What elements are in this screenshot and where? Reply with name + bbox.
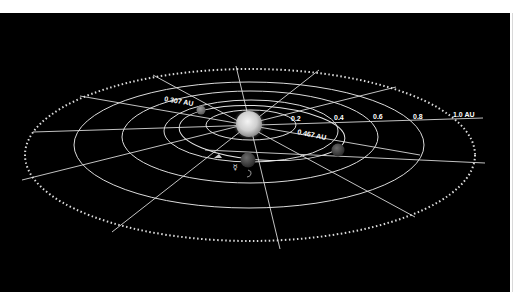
spiral-icon	[247, 170, 251, 177]
spoke-line	[22, 87, 396, 180]
planet-icon	[241, 153, 256, 168]
ring-label-0-2: 0.2	[291, 115, 301, 122]
aphelion-label: 0.467 AU	[297, 128, 327, 141]
planet-icon	[332, 144, 345, 157]
perihelion-label: 0.307 AU	[164, 95, 194, 107]
spacecraft-marker-icon	[214, 154, 222, 158]
planet-icon	[197, 106, 206, 115]
ring-label-1-0: 1.0 AU	[453, 111, 475, 118]
ring-0-8	[74, 82, 424, 208]
orbit-svg: 0.2 0.4 0.6 0.8 1.0 AU 0.307 AU 0.467 AU…	[0, 13, 510, 292]
ring-label-0-6: 0.6	[373, 113, 383, 120]
ring-label-0-4: 0.4	[334, 114, 344, 121]
mercury-symbol-icon: ☿	[233, 163, 238, 172]
sun-icon	[233, 108, 265, 140]
orbit-diagram: 0.2 0.4 0.6 0.8 1.0 AU 0.307 AU 0.467 AU…	[0, 13, 510, 292]
frame-border	[512, 13, 513, 292]
ring-label-0-8: 0.8	[413, 113, 423, 120]
